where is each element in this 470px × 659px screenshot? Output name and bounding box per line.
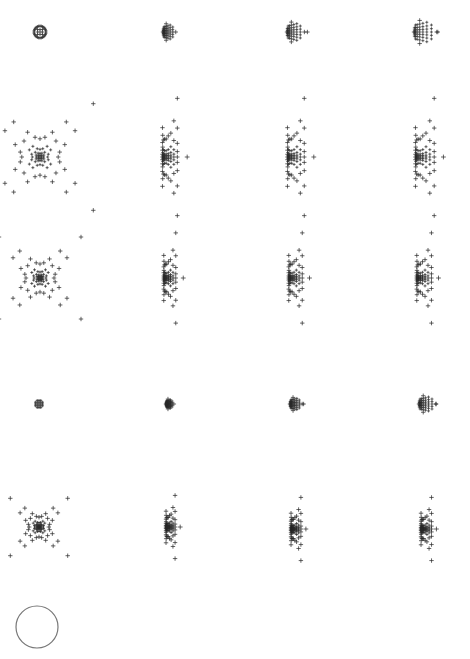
spot-diagram-panel bbox=[32, 24, 47, 39]
spot-diagram-panel bbox=[419, 495, 439, 563]
spot-diagram-panel bbox=[164, 397, 176, 411]
spot-diagram-panel bbox=[415, 231, 441, 326]
spot-diagram-panel bbox=[287, 231, 312, 326]
spot-diagram-panels bbox=[0, 18, 446, 563]
spot-diagram-panel bbox=[0, 102, 96, 213]
spot-diagram-panel bbox=[8, 496, 70, 558]
spot-diagram-panel bbox=[285, 20, 310, 44]
spot-diagram-panel bbox=[161, 22, 178, 43]
spot-diagram-panel bbox=[164, 493, 183, 561]
spot-diagram-panel bbox=[413, 96, 446, 218]
spot-diagram-panel bbox=[288, 395, 306, 413]
spot-diagram-panel bbox=[417, 394, 438, 415]
spot-diagram-panel bbox=[160, 96, 189, 218]
spot-diagram-panel bbox=[0, 235, 83, 321]
spot-diagram-panel bbox=[285, 96, 316, 218]
spot-diagram-figure bbox=[0, 0, 470, 659]
reference-circle bbox=[16, 606, 58, 648]
spot-diagram-panel bbox=[289, 495, 308, 563]
spot-diagram-panel bbox=[162, 231, 186, 326]
spot-diagram-panel bbox=[34, 399, 44, 409]
spot-diagram-panel bbox=[412, 18, 440, 46]
